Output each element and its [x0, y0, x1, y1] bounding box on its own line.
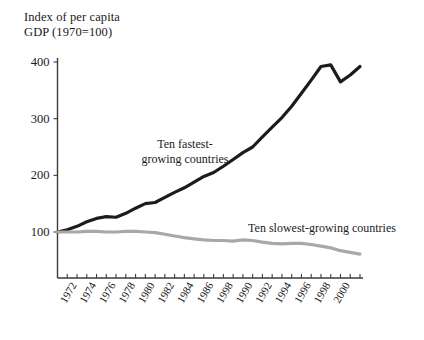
y-axis-tick-labels: 100200300400 [31, 55, 50, 239]
x-axis-tick-label: 1986 [194, 280, 216, 305]
y-axis-tick-label: 200 [31, 168, 50, 182]
x-axis-tick-label: 2000 [331, 280, 353, 305]
series-annotations: Ten fastest- growing countries Ten slowe… [142, 137, 397, 235]
x-axis-tick-label: 1990 [233, 280, 255, 305]
x-axis-tick-labels: 1972197419761978198019821984198619981990… [57, 280, 352, 305]
x-axis: 1972197419761978198019821984198619981990… [57, 274, 363, 305]
annotation-fastest-growing-line-1: Ten fastest- [157, 137, 212, 151]
y-axis: 100200300400 [31, 55, 58, 278]
x-axis-tick-label: 1972 [57, 280, 78, 305]
x-axis-tick-label: 1998 [311, 280, 333, 305]
chart-figure: Index of per capitaGDP (1970=100) 100200… [0, 0, 424, 340]
x-axis-tick-label: 1976 [96, 280, 118, 305]
chart-plot-area: 100200300400 197219741976197819801982198… [0, 0, 424, 340]
x-axis-tick-label: 1992 [253, 280, 274, 305]
annotation-fastest-growing-line-2: growing countries [142, 152, 229, 166]
x-axis-tick-label: 1978 [116, 280, 138, 305]
x-axis-tick-label: 1980 [135, 280, 157, 305]
y-axis-tick-label: 300 [31, 112, 50, 126]
annotation-slowest-growing: Ten slowest-growing countries [248, 221, 396, 235]
x-axis-tick-label: 1984 [174, 280, 196, 305]
y-axis-tick-label: 400 [31, 55, 50, 69]
x-axis-tick-label: 1982 [155, 280, 176, 305]
x-axis-tick-label: 1998 [213, 280, 235, 305]
y-axis-tick-label: 100 [31, 225, 50, 239]
x-axis-tick-label: 1996 [292, 280, 314, 305]
x-axis-tick-label: 1994 [272, 280, 294, 305]
x-axis-tick-label: 1974 [77, 280, 99, 305]
